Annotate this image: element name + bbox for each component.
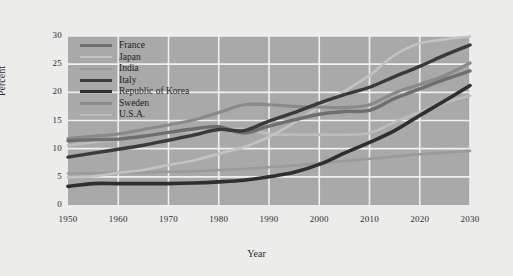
- y-tick-label: 0: [36, 199, 62, 209]
- legend-item: India: [80, 63, 189, 75]
- y-tick-label: 10: [36, 143, 62, 153]
- legend-swatch-icon: [80, 102, 112, 105]
- y-tick-label: 15: [36, 115, 62, 125]
- legend-swatch-icon: [80, 90, 112, 93]
- legend-item: Sweden: [80, 98, 189, 110]
- x-tick-label: 2020: [400, 214, 440, 224]
- legend-swatch-icon: [80, 79, 112, 82]
- legend-swatch-icon: [80, 56, 112, 58]
- y-axis-title: Percent: [0, 66, 7, 96]
- x-tick-label: 1980: [199, 214, 239, 224]
- y-tick-label: 30: [36, 30, 62, 40]
- chart-legend: FranceJapanIndiaItalyRepublic of KoreaSw…: [80, 40, 189, 121]
- plot-area: FranceJapanIndiaItalyRepublic of KoreaSw…: [68, 36, 470, 205]
- y-tick-label: 20: [36, 86, 62, 96]
- legend-label: Italy: [119, 75, 136, 86]
- legend-label: France: [119, 40, 145, 51]
- legend-swatch-icon: [80, 44, 112, 47]
- legend-item: Republic of Korea: [80, 86, 189, 98]
- x-tick-label: 1990: [249, 214, 289, 224]
- x-tick-label: 2030: [450, 214, 490, 224]
- legend-item: U.S.A.: [80, 109, 189, 121]
- y-tick-label: 5: [36, 171, 62, 181]
- legend-swatch-icon: [80, 114, 112, 116]
- legend-swatch-icon: [80, 68, 112, 70]
- legend-item: France: [80, 40, 189, 52]
- x-tick-label: 2010: [350, 214, 390, 224]
- legend-item: Japan: [80, 52, 189, 64]
- y-tick-label: 25: [36, 58, 62, 68]
- legend-label: India: [119, 63, 139, 74]
- x-tick-label: 2000: [299, 214, 339, 224]
- legend-item: Italy: [80, 75, 189, 87]
- x-tick-label: 1970: [149, 214, 189, 224]
- series-line: [68, 151, 470, 174]
- x-tick-label: 1960: [98, 214, 138, 224]
- legend-label: U.S.A.: [119, 109, 145, 120]
- chart-figure: FranceJapanIndiaItalyRepublic of KoreaSw…: [0, 0, 513, 276]
- x-tick-label: 1950: [48, 214, 88, 224]
- legend-label: Sweden: [119, 98, 149, 109]
- legend-label: Republic of Korea: [119, 86, 189, 97]
- legend-label: Japan: [119, 52, 141, 63]
- x-axis-title: Year: [0, 248, 513, 259]
